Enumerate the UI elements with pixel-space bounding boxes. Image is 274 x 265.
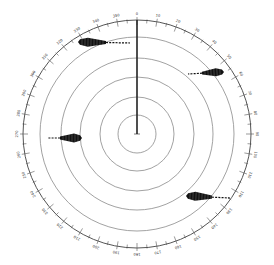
bearing-label: 250: [21, 170, 27, 178]
bearing-label: 60: [238, 71, 244, 78]
bearing-label: 210: [72, 234, 81, 241]
major-tick: [244, 153, 252, 154]
major-tick: [244, 114, 252, 115]
major-tick: [117, 241, 118, 249]
bearing-label: 320: [56, 38, 64, 46]
major-tick: [97, 236, 100, 244]
bearing-label: 170: [153, 250, 161, 255]
bearing-label: 80: [253, 111, 258, 117]
bearing-label: 150: [192, 234, 201, 241]
major-tick: [239, 171, 247, 174]
bearing-label: 100: [253, 151, 258, 159]
bearing-label: 230: [41, 207, 49, 215]
echo-northwest: [78, 38, 130, 47]
bearing-label: 240: [29, 189, 36, 198]
echo-southeast: [186, 192, 230, 202]
bearing-label: 110: [246, 171, 252, 179]
echo-tail: [212, 197, 230, 198]
major-tick: [156, 19, 157, 27]
bearing-label: 20: [175, 19, 181, 25]
bearing-label: 10: [155, 13, 161, 18]
major-tick: [97, 24, 100, 32]
bearing-label: 340: [92, 18, 100, 24]
major-tick: [174, 236, 177, 244]
bearing-label: 290: [21, 88, 27, 96]
echo-west: [48, 134, 82, 143]
major-tick: [239, 94, 247, 97]
bearing-label: 180: [133, 252, 141, 256]
echo-northeast: [188, 68, 224, 77]
major-tick: [27, 171, 35, 174]
bearing-label: 120: [237, 190, 244, 199]
bearing-label: 190: [112, 250, 120, 255]
bearing-label: 330: [73, 26, 82, 33]
bearing-label: 0: [136, 12, 139, 16]
bearing-label: 50: [226, 54, 232, 61]
bearing-label: 160: [173, 244, 181, 250]
bearing-label: 90: [255, 132, 259, 137]
major-tick: [22, 114, 30, 115]
echo-tail: [188, 73, 202, 74]
major-tick: [22, 153, 30, 154]
radar-display: 0102030405060708090100110120130140150160…: [0, 0, 274, 265]
major-tick: [117, 19, 118, 27]
bearing-label: 70: [247, 90, 253, 96]
bearing-label: 140: [210, 222, 218, 230]
major-tick: [174, 24, 177, 32]
bearing-label: 270: [15, 130, 19, 138]
bearing-label: 350: [112, 13, 120, 18]
bearing-label: 260: [16, 150, 21, 158]
bearing-label: 300: [30, 69, 37, 78]
bearing-label: 200: [91, 243, 99, 249]
bearing-label: 280: [16, 109, 21, 117]
major-tick: [156, 241, 157, 249]
bearing-label: 30: [194, 27, 201, 33]
major-tick: [27, 94, 35, 97]
